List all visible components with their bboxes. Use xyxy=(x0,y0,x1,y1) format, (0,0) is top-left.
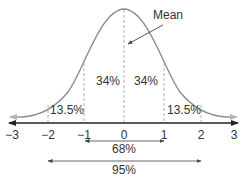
axis-tick-labels: −3 −2 −1 0 1 2 3 xyxy=(5,128,238,142)
tick-zero: 0 xyxy=(121,128,128,142)
tick-minus-3: −3 xyxy=(5,128,19,142)
region-label-minus2-minus1: 13.5% xyxy=(50,103,84,117)
tick-plus-2: 2 xyxy=(198,128,205,142)
bell-curve xyxy=(10,9,236,117)
tick-plus-1: 1 xyxy=(161,128,168,142)
mean-label: Mean xyxy=(153,8,183,22)
region-label-mean-plus1: 34% xyxy=(134,74,158,88)
region-label-plus1-plus2: 13.5% xyxy=(167,103,201,117)
range-95-label: 95% xyxy=(112,163,136,177)
mean-pointer-arrow xyxy=(128,25,163,44)
tick-minus-1: −1 xyxy=(77,128,91,142)
tick-plus-3: 3 xyxy=(231,128,238,142)
tick-minus-2: −2 xyxy=(41,128,55,142)
range-68-label: 68% xyxy=(112,142,136,156)
normal-distribution-diagram: 13.5% 34% 34% 13.5% Mean −3 −2 −1 0 1 2 … xyxy=(0,0,246,179)
region-label-minus1-mean: 34% xyxy=(96,74,120,88)
